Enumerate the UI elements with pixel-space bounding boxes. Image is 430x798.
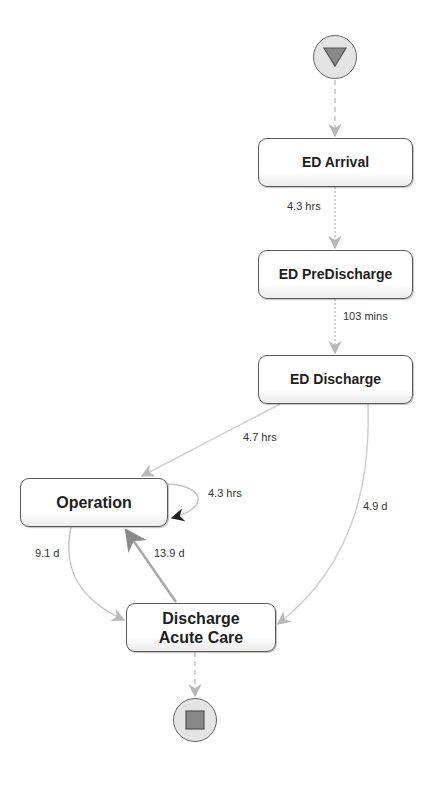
edge-label-ed-discharge-to-operation: 4.7 hrs xyxy=(243,431,277,443)
edge-label-operation-self-loop: 4.3 hrs xyxy=(208,487,242,499)
edge-label-operation-to-acute-care: 9.1 d xyxy=(35,547,59,559)
node-label-line1: Discharge xyxy=(162,609,239,628)
edge-label-ed-discharge-to-acute-care: 4.9 d xyxy=(363,500,387,512)
edge-operation-self-loop xyxy=(168,484,198,518)
edge-acute-care-to-operation xyxy=(126,530,176,602)
node-discharge-acute-care[interactable]: Discharge Acute Care xyxy=(126,603,276,652)
edge-label-acute-care-to-operation: 13.9 d xyxy=(154,547,185,559)
node-label: ED Arrival xyxy=(302,153,369,172)
start-triangle-icon xyxy=(322,45,348,69)
node-ed-discharge[interactable]: ED Discharge xyxy=(258,355,413,404)
node-label: Operation xyxy=(56,493,132,512)
edge-label-ed-arrival-to-predischarge: 4.3 hrs xyxy=(287,200,321,212)
end-square-icon xyxy=(184,709,206,731)
start-node[interactable] xyxy=(313,35,357,79)
node-ed-arrival[interactable]: ED Arrival xyxy=(258,138,413,187)
node-operation[interactable]: Operation xyxy=(20,478,168,527)
node-label-line2: Acute Care xyxy=(159,628,243,647)
node-label: ED Discharge xyxy=(290,370,381,389)
edge-ed-discharge-to-acute-care xyxy=(278,404,368,624)
node-ed-predischarge[interactable]: ED PreDischarge xyxy=(258,250,413,299)
edge-label-predischarge-to-ed-discharge: 103 mins xyxy=(343,310,388,322)
end-node[interactable] xyxy=(173,698,217,742)
edge-operation-to-acute-care xyxy=(69,527,124,620)
node-label: ED PreDischarge xyxy=(279,265,393,284)
